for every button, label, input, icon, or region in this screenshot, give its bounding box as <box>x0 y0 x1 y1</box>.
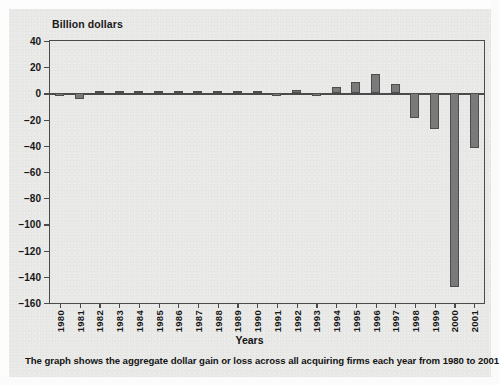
y-axis-tick <box>44 251 50 252</box>
x-axis-label: 1980 <box>55 310 66 332</box>
x-axis-tick <box>60 303 61 308</box>
x-axis-label: 1987 <box>193 310 204 332</box>
bar <box>292 90 301 93</box>
chart-title: Billion dollars <box>52 18 123 30</box>
y-axis-tick <box>44 120 50 121</box>
x-axis-label: 1989 <box>232 310 243 332</box>
y-axis-label: −40 <box>24 140 41 151</box>
x-axis-tick <box>277 303 278 308</box>
plot-area: 40200−20−40−60−80−100−120−140−160 198019… <box>49 40 485 304</box>
bar <box>233 91 242 94</box>
figure-caption: The graph shows the aggregate dollar gai… <box>25 355 480 366</box>
x-axis-tick <box>297 303 298 308</box>
x-axis-tick <box>395 303 396 308</box>
page-margin-bottom <box>0 377 499 385</box>
x-axis-label: 2001 <box>469 310 480 332</box>
x-axis-label: 1984 <box>134 310 145 332</box>
y-axis-tick <box>44 146 50 147</box>
x-axis-label: 1992 <box>292 310 303 332</box>
bar <box>134 91 143 93</box>
y-axis-tick <box>44 224 50 225</box>
x-axis-tick <box>139 303 140 308</box>
y-axis-label: −20 <box>24 114 41 125</box>
bar <box>75 93 84 98</box>
bar <box>391 84 400 93</box>
bar <box>312 93 321 96</box>
x-axis-tick <box>198 303 199 308</box>
y-axis-tick <box>44 67 50 68</box>
bar <box>213 91 222 93</box>
y-axis-label: −140 <box>18 271 41 282</box>
x-axis-label: 1998 <box>410 310 421 332</box>
x-axis-tick <box>356 303 357 308</box>
page-margin-top <box>0 0 499 9</box>
x-axis-label: 1999 <box>430 310 441 332</box>
y-axis-label: −100 <box>18 219 41 230</box>
page-margin-right <box>491 0 499 385</box>
bar <box>332 87 341 94</box>
y-axis-label: −60 <box>24 167 41 178</box>
y-axis-tick <box>44 198 50 199</box>
y-axis-label: 20 <box>30 62 41 73</box>
x-axis-tick <box>237 303 238 308</box>
y-axis-tick <box>44 41 50 42</box>
x-axis-label: 1988 <box>213 310 224 332</box>
bar <box>470 93 479 148</box>
x-axis-label: 1990 <box>252 310 263 332</box>
x-axis-title: Years <box>0 334 499 346</box>
x-axis-tick <box>336 303 337 308</box>
bar <box>55 93 64 96</box>
x-axis-tick <box>99 303 100 308</box>
y-axis-tick <box>44 303 50 304</box>
x-axis-label: 1997 <box>390 310 401 332</box>
y-axis-label: 0 <box>35 88 41 99</box>
x-axis-tick <box>159 303 160 308</box>
figure-panel: Billion dollars 40200−20−40−60−80−100−12… <box>0 0 499 385</box>
x-axis-label: 1981 <box>75 310 86 332</box>
bar <box>253 91 262 94</box>
x-axis-tick <box>178 303 179 308</box>
bar <box>450 93 459 287</box>
x-axis-label: 2000 <box>449 310 460 332</box>
x-axis-label: 1983 <box>114 310 125 332</box>
bar <box>371 74 380 94</box>
x-axis-tick <box>119 303 120 308</box>
x-axis-tick <box>80 303 81 308</box>
bar <box>430 93 439 128</box>
x-axis-label: 1995 <box>351 310 362 332</box>
x-axis-label: 1986 <box>173 310 184 332</box>
y-axis-tick <box>44 277 50 278</box>
y-axis-label: −80 <box>24 193 41 204</box>
y-axis-tick <box>44 172 50 173</box>
bar <box>154 91 163 93</box>
x-axis-tick <box>316 303 317 308</box>
bar <box>351 82 360 94</box>
x-axis-label: 1993 <box>311 310 322 332</box>
y-axis-label: −120 <box>18 245 41 256</box>
bar <box>115 91 124 93</box>
x-axis-tick <box>454 303 455 308</box>
x-axis-tick <box>376 303 377 308</box>
bar <box>193 91 202 93</box>
x-axis-tick <box>435 303 436 308</box>
x-axis-label: 1994 <box>331 310 342 332</box>
x-axis-tick <box>257 303 258 308</box>
x-axis-label: 1996 <box>371 310 382 332</box>
x-axis-label: 1985 <box>154 310 165 332</box>
y-axis-label: −160 <box>18 298 41 309</box>
bar <box>174 91 183 93</box>
bar <box>95 91 104 93</box>
x-axis-tick <box>474 303 475 308</box>
bar <box>410 93 419 118</box>
y-axis-label: 40 <box>30 36 41 47</box>
x-axis-label: 1982 <box>94 310 105 332</box>
x-axis-tick <box>218 303 219 308</box>
page-margin-left <box>0 0 9 385</box>
bar <box>272 93 281 95</box>
x-axis-tick <box>415 303 416 308</box>
x-axis-label: 1991 <box>272 310 283 332</box>
